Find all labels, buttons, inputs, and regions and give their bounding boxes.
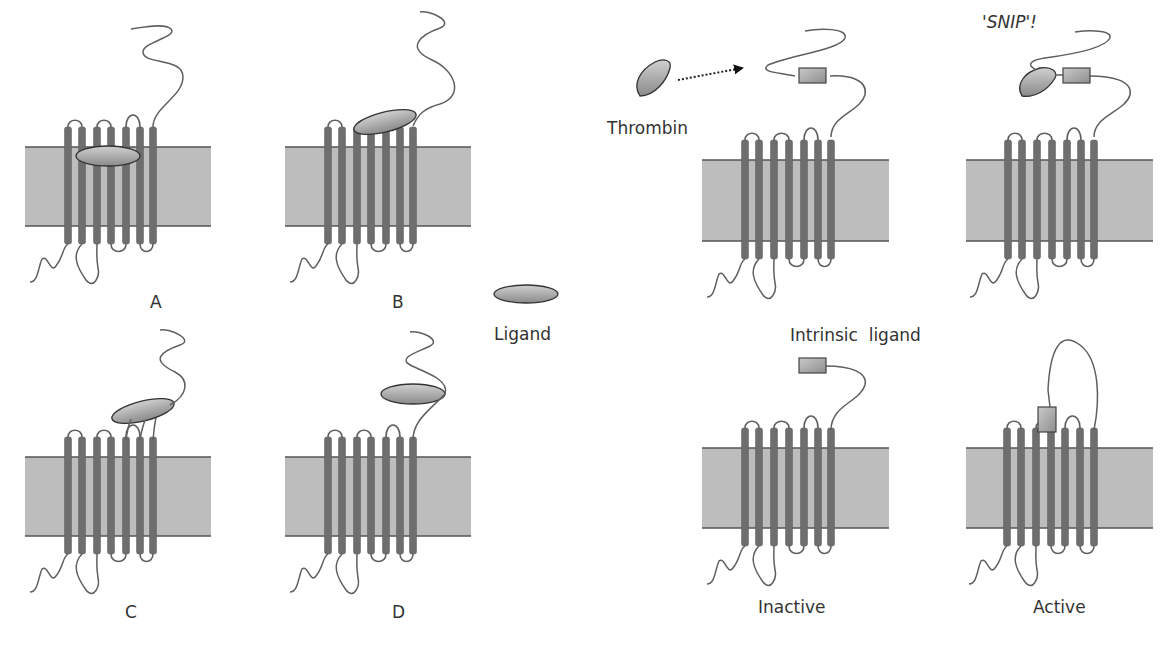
lipid-bilayer <box>285 147 471 226</box>
transmembrane-helix <box>1005 140 1012 259</box>
transmembrane-helix <box>801 140 808 259</box>
transmembrane-helix <box>325 127 332 244</box>
lipid-bilayer <box>702 448 889 528</box>
transmembrane-helix <box>397 437 404 554</box>
receptor-panel-inactive <box>702 416 889 585</box>
transmembrane-helix <box>771 428 778 546</box>
transmembrane-helix <box>756 140 763 259</box>
lipid-bilayer <box>702 160 889 241</box>
lipid-bilayer <box>966 448 1153 528</box>
transmembrane-helix <box>786 428 793 546</box>
panel-b-label: B <box>392 292 404 312</box>
gpcr-ligand-binding-diagram <box>0 0 1170 651</box>
transmembrane-helix <box>354 437 361 554</box>
transmembrane-helix <box>1033 428 1040 546</box>
panel-c-ligand <box>110 330 185 440</box>
panel-c-label: C <box>125 602 137 622</box>
transmembrane-helix <box>108 127 115 244</box>
transmembrane-helix <box>1048 428 1055 546</box>
thrombin-label: Thrombin <box>607 118 688 138</box>
transmembrane-helix <box>94 437 101 554</box>
transmembrane-helix <box>79 127 86 244</box>
transmembrane-helix <box>339 127 346 244</box>
transmembrane-helix <box>1062 428 1069 546</box>
transmembrane-helix <box>815 428 822 546</box>
panel-d-label: D <box>392 602 405 622</box>
transmembrane-helix <box>65 437 72 554</box>
transmembrane-helix <box>410 437 417 554</box>
receptor-panel-d <box>285 425 471 593</box>
active-label: Active <box>1033 597 1086 617</box>
transmembrane-helix <box>771 140 778 259</box>
lipid-bilayer <box>285 457 471 536</box>
panel-a-label: A <box>150 292 162 312</box>
transmembrane-helix <box>756 428 763 546</box>
transmembrane-helix <box>1004 428 1011 546</box>
transmembrane-helix <box>742 428 749 546</box>
panel-b-ligand <box>352 12 455 140</box>
transmembrane-helix <box>742 140 749 259</box>
thrombin-n-terminus <box>766 29 866 137</box>
transmembrane-helix <box>1049 140 1056 259</box>
transmembrane-helix <box>828 428 835 546</box>
transmembrane-helix <box>1018 428 1025 546</box>
transmembrane-helix <box>150 127 157 244</box>
transmembrane-helix <box>1064 140 1071 259</box>
transmembrane-helix <box>368 437 375 554</box>
transmembrane-helix <box>137 437 144 554</box>
transmembrane-helix <box>123 127 130 244</box>
lipid-bilayer <box>25 457 211 536</box>
thrombin-enzyme <box>637 60 670 96</box>
transmembrane-helix <box>65 127 72 244</box>
snip-cleaved-thrombin <box>1020 31 1110 96</box>
panels-layer <box>25 26 1153 594</box>
transmembrane-helix <box>397 127 404 244</box>
thrombin-arrow <box>678 68 742 80</box>
transmembrane-helix <box>410 127 417 244</box>
transmembrane-helix <box>150 437 157 554</box>
transmembrane-helix <box>815 140 822 259</box>
transmembrane-helix <box>339 437 346 554</box>
inactive-label: Inactive <box>758 597 825 617</box>
transmembrane-helix <box>1091 140 1098 259</box>
intrinsic-ligand-label: Intrinsic ligand <box>790 325 921 345</box>
transmembrane-helix <box>786 140 793 259</box>
transmembrane-helix <box>108 437 115 554</box>
transmembrane-helix <box>79 437 86 554</box>
lipid-bilayer <box>966 160 1153 241</box>
transmembrane-helix <box>1077 428 1084 546</box>
receptor-panel-thrombin <box>702 128 889 298</box>
transmembrane-helix <box>1034 140 1041 259</box>
transmembrane-helix <box>94 127 101 244</box>
transmembrane-helix <box>383 437 390 554</box>
receptor-panel-active <box>966 416 1153 585</box>
receptor-panel-snip <box>966 128 1153 298</box>
snip-label: 'SNIP'! <box>982 12 1037 32</box>
transmembrane-helix <box>801 428 808 546</box>
ligand-legend-label: Ligand <box>494 324 551 344</box>
transmembrane-helix <box>1019 140 1026 259</box>
transmembrane-helix <box>1091 428 1098 546</box>
receptor-panel-c <box>25 425 211 593</box>
transmembrane-helix <box>325 437 332 554</box>
transmembrane-helix <box>123 437 130 554</box>
transmembrane-helix <box>354 127 361 244</box>
receptor-panel-b <box>285 115 471 283</box>
transmembrane-helix <box>383 127 390 244</box>
snip-n-terminus <box>1055 68 1130 137</box>
ligand-legend-shape <box>494 285 558 303</box>
panel-a-ligand <box>76 146 140 166</box>
transmembrane-helix <box>828 140 835 259</box>
panel-d-ligand <box>381 332 446 440</box>
transmembrane-helix <box>1078 140 1085 259</box>
intrinsic-ligand-inactive <box>799 358 865 430</box>
transmembrane-helix <box>137 127 144 244</box>
transmembrane-helix <box>368 127 375 244</box>
